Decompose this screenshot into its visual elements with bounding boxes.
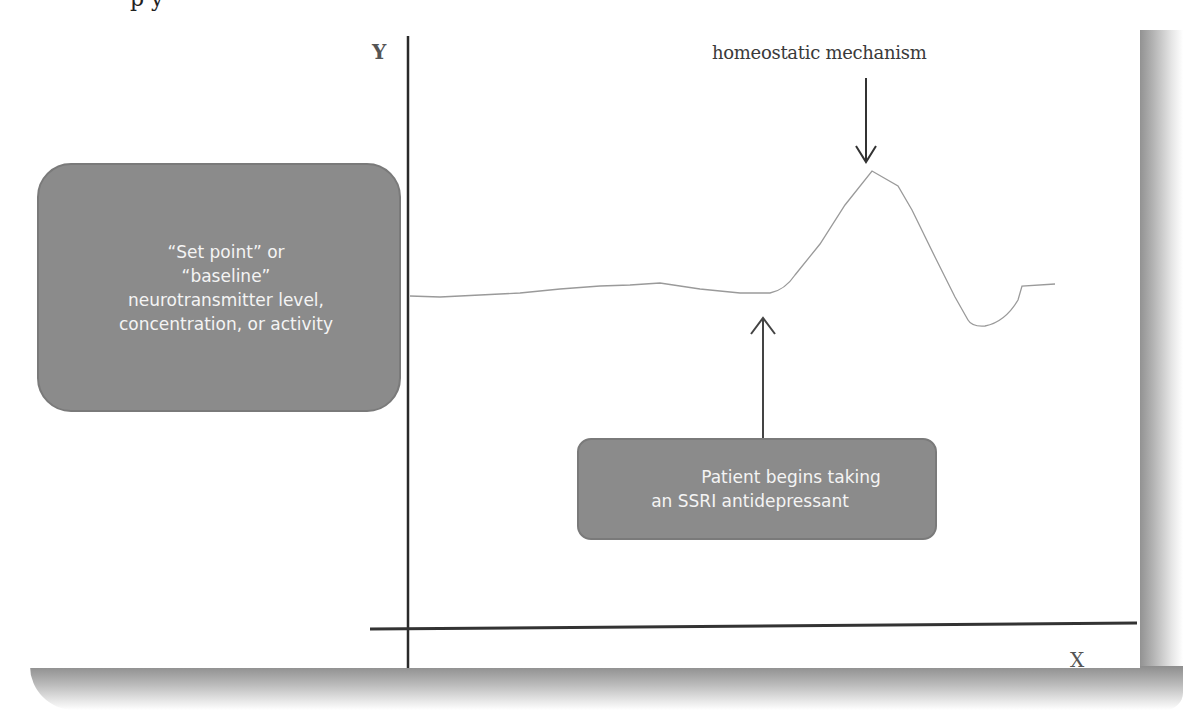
neurotransmitter-curve [410, 171, 1055, 326]
x-axis-line [370, 623, 1137, 629]
chart-canvas [0, 0, 1183, 710]
arrow-down-icon [856, 78, 876, 162]
arrow-up-icon [751, 318, 775, 438]
